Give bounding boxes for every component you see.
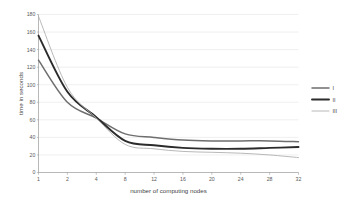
x-tick-label: 12	[151, 176, 157, 182]
y-tick-label: 60	[30, 117, 36, 123]
x-tick-label: 32	[296, 176, 302, 182]
chart-background	[0, 0, 354, 202]
x-tick-label: 28	[267, 176, 273, 182]
y-tick-label: 80	[30, 99, 36, 105]
y-tick-label: 100	[27, 82, 36, 88]
x-tick-label: 2	[66, 176, 69, 182]
x-tick-label: 8	[124, 176, 127, 182]
x-tick-label: 4	[95, 176, 98, 182]
y-tick-label: 120	[27, 64, 36, 70]
x-tick-label: 24	[238, 176, 244, 182]
y-tick-label: 140	[27, 47, 36, 53]
y-axis-title: time in seconds	[17, 72, 24, 115]
x-tick-label: 20	[209, 176, 215, 182]
legend-label-III: III	[333, 108, 338, 114]
y-tick-label: 180	[27, 11, 36, 17]
y-tick-label: 160	[27, 29, 36, 35]
y-tick-label: 20	[30, 152, 36, 158]
chart-container: 020406080100120140160180 124812162024283…	[0, 0, 354, 202]
legend-label-II: II	[333, 97, 336, 103]
legend-label-I: I	[333, 85, 335, 91]
y-tick-label: 0	[32, 169, 35, 175]
y-tick-label: 40	[30, 134, 36, 140]
x-tick-label: 1	[37, 176, 40, 182]
x-tick-label: 16	[180, 176, 186, 182]
line-chart: 020406080100120140160180 124812162024283…	[0, 0, 354, 202]
x-axis-title: number of computing nodes	[130, 187, 207, 194]
